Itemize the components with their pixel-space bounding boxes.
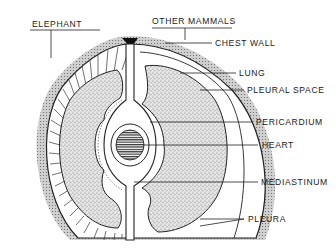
label-pleural-space: PLEURAL SPACE xyxy=(247,86,325,95)
label-lung: LUNG xyxy=(239,69,265,78)
label-mediastinum: MEDIASTINUM xyxy=(261,178,328,187)
label-other-mammals: OTHER MAMMALS xyxy=(152,17,236,26)
label-pericardium: PERICARDIUM xyxy=(256,118,323,127)
label-heart: HEART xyxy=(262,141,294,150)
label-pleura: PLEURA xyxy=(248,215,286,224)
label-elephant: ELEPHANT xyxy=(32,20,82,29)
heart xyxy=(116,130,144,160)
label-chest-wall: CHEST WALL xyxy=(215,39,275,48)
